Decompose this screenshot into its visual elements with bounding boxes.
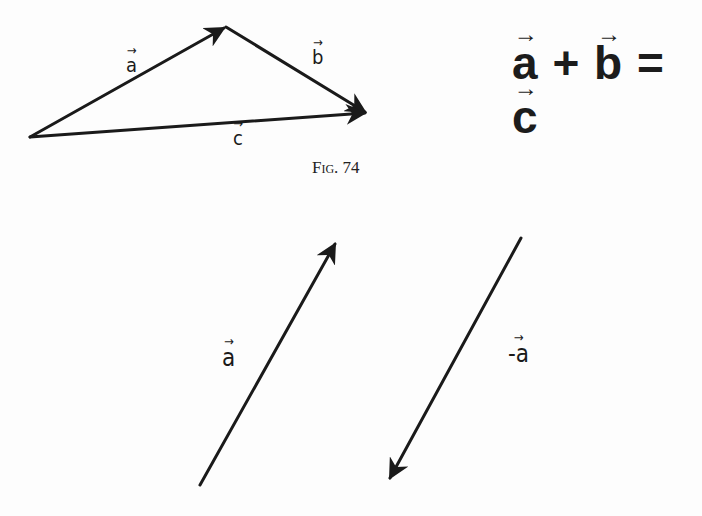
arrow-over-icon: → xyxy=(514,20,537,48)
arrow-over-icon: → xyxy=(234,117,243,130)
arrow-over-icon: → xyxy=(597,20,620,48)
figure-caption: Fig. 74 xyxy=(312,158,360,178)
label-b-top: →b xyxy=(312,47,323,67)
arrow-over-icon: → xyxy=(514,331,523,344)
vector-b-top xyxy=(226,27,365,112)
label-c-top: →c xyxy=(233,128,243,148)
arrow-over-icon: → xyxy=(514,74,537,102)
label-neg-a-bottom: →-a xyxy=(508,342,529,366)
vector-a-bottom xyxy=(200,244,335,485)
arrow-over-icon: → xyxy=(313,36,322,49)
diagram-canvas: →a →b →c →a + →b = →c Fig. 74 →a →-a xyxy=(0,0,702,516)
vector-neg-a-bottom xyxy=(390,238,521,478)
vector-sum-equation: →a + →b = →c xyxy=(512,36,702,144)
arrow-over-icon: → xyxy=(127,44,136,57)
label-a-bottom: →a xyxy=(222,346,235,370)
arrow-over-icon: → xyxy=(224,335,233,348)
label-a-top: →a xyxy=(126,55,137,75)
vector-c-top xyxy=(30,113,365,137)
